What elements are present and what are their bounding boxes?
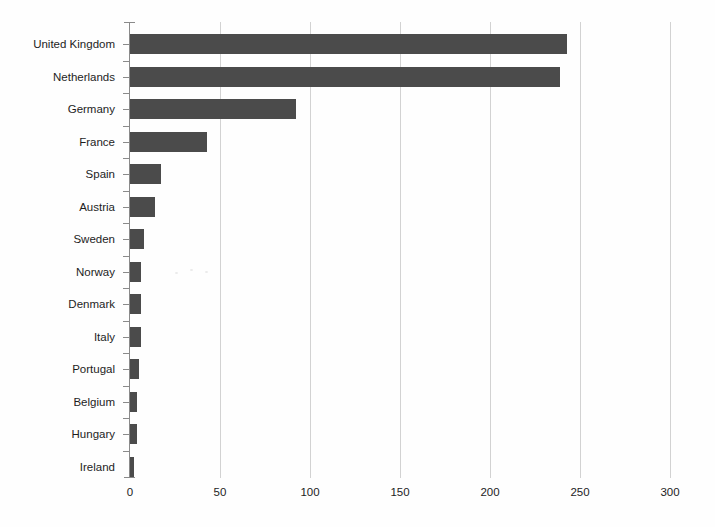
y-axis-tick [123, 272, 130, 273]
y-axis-label-spain: Spain [86, 168, 115, 180]
y-axis-cap-top [124, 22, 135, 23]
bar-italy [130, 327, 141, 347]
y-axis-tick [123, 418, 130, 419]
bar-spain [130, 164, 161, 184]
y-axis-tick [123, 451, 130, 452]
x-axis-label-200: 200 [480, 486, 499, 498]
y-axis-tick [123, 256, 130, 257]
bar-sweden [130, 229, 144, 249]
y-axis-tick [123, 288, 130, 289]
y-axis-label-belgium: Belgium [73, 396, 115, 408]
gridline-250 [580, 22, 581, 478]
y-axis-label-sweden: Sweden [73, 233, 115, 245]
bar-belgium [130, 392, 137, 412]
y-axis-tick [123, 386, 130, 387]
y-axis-tick [123, 77, 130, 78]
y-axis-label-france: France [79, 136, 115, 148]
gridline-100 [310, 22, 311, 478]
y-axis-tick [123, 223, 130, 224]
y-axis-labels: United Kingdom Netherlands Germany Franc… [0, 0, 123, 527]
bar-germany [130, 99, 296, 119]
y-axis-tick [123, 402, 130, 403]
bar-austria [130, 197, 155, 217]
y-axis-line [129, 22, 130, 478]
y-axis-tick [123, 353, 130, 354]
x-axis-label-100: 100 [300, 486, 319, 498]
y-axis-cap-bottom [124, 477, 135, 478]
y-axis-label-united-kingdom: United Kingdom [33, 38, 115, 50]
y-axis-tick [123, 109, 130, 110]
x-axis-label-300: 300 [660, 486, 679, 498]
y-axis-tick [123, 191, 130, 192]
y-axis-label-denmark: Denmark [68, 298, 115, 310]
bar-chart: United Kingdom Netherlands Germany Franc… [0, 0, 715, 527]
bar-united-kingdom [130, 34, 567, 54]
y-axis-tick [123, 93, 130, 94]
y-axis-tick [123, 44, 130, 45]
gridline-150 [400, 22, 401, 478]
bar-france [130, 132, 207, 152]
scan-speck [205, 271, 208, 273]
gridline-200 [490, 22, 491, 478]
y-axis-tick [123, 61, 130, 62]
y-axis-tick [123, 174, 130, 175]
y-axis-tick [123, 369, 130, 370]
bar-netherlands [130, 67, 560, 87]
y-axis-tick [123, 337, 130, 338]
y-axis-tick [123, 158, 130, 159]
bar-ireland [130, 457, 134, 477]
x-axis-label-150: 150 [390, 486, 409, 498]
y-axis-tick [123, 142, 130, 143]
y-axis-label-hungary: Hungary [72, 428, 115, 440]
y-axis-label-italy: Italy [94, 331, 115, 343]
plot-area [130, 22, 670, 478]
scan-speck [175, 272, 178, 274]
bar-portugal [130, 359, 139, 379]
y-axis-label-germany: Germany [68, 103, 115, 115]
x-axis-label-0: 0 [127, 486, 133, 498]
y-axis-label-austria: Austria [79, 201, 115, 213]
bar-denmark [130, 294, 141, 314]
y-axis-tick [123, 321, 130, 322]
y-axis-tick [123, 304, 130, 305]
y-axis-label-norway: Norway [76, 266, 115, 278]
y-axis-tick [123, 207, 130, 208]
y-axis-tick [123, 434, 130, 435]
y-axis-tick [123, 126, 130, 127]
gridline-50 [220, 22, 221, 478]
y-axis-label-ireland: Ireland [80, 461, 115, 473]
scan-speck [190, 269, 193, 271]
x-axis-label-250: 250 [570, 486, 589, 498]
bar-hungary [130, 424, 137, 444]
x-axis-label-50: 50 [214, 486, 227, 498]
y-axis-tick [123, 239, 130, 240]
gridline-300 [670, 22, 671, 478]
y-axis-label-netherlands: Netherlands [53, 71, 115, 83]
y-axis-label-portugal: Portugal [72, 363, 115, 375]
bar-norway [130, 262, 141, 282]
